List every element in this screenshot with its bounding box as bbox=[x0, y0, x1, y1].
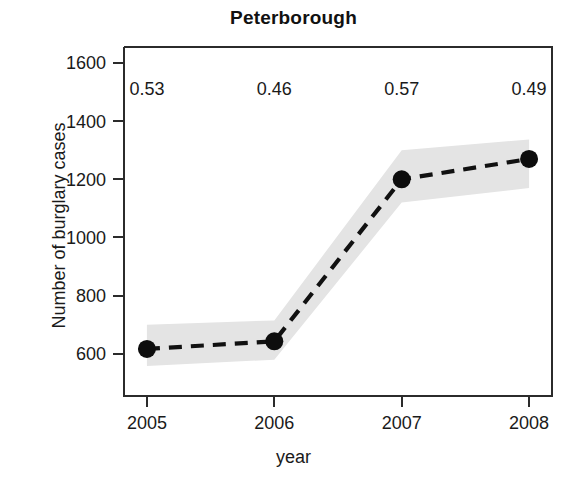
y-axis-tick-label: 600 bbox=[76, 344, 106, 364]
chart-figure: Peterborough Number of burglary cases ye… bbox=[0, 0, 587, 490]
confidence-band bbox=[147, 139, 529, 366]
y-axis-ticks bbox=[113, 63, 124, 354]
x-axis-ticks bbox=[147, 396, 529, 407]
data-point bbox=[393, 170, 411, 188]
annotation-label: 0.46 bbox=[257, 79, 292, 99]
y-axis-tick-label: 1600 bbox=[66, 53, 106, 73]
y-axis-tick-labels: 1600140012001000800600 bbox=[66, 53, 106, 364]
x-axis-tick-label: 2006 bbox=[254, 413, 294, 433]
y-axis-tick-label: 1400 bbox=[66, 112, 106, 132]
data-point bbox=[520, 150, 538, 168]
data-point bbox=[138, 340, 156, 358]
data-point bbox=[265, 332, 283, 350]
annotation-label: 0.49 bbox=[512, 79, 547, 99]
y-axis-tick-label: 1000 bbox=[66, 228, 106, 248]
x-axis-tick-label: 2007 bbox=[382, 413, 422, 433]
x-axis-tick-labels: 2005200620072008 bbox=[127, 413, 549, 433]
annotation-labels: 0.530.460.570.49 bbox=[129, 79, 546, 99]
y-axis-tick-label: 800 bbox=[76, 286, 106, 306]
plot-area: 1600140012001000800600 2005200620072008 … bbox=[0, 0, 587, 490]
y-axis-tick-label: 1200 bbox=[66, 170, 106, 190]
x-axis-tick-label: 2005 bbox=[127, 413, 167, 433]
annotation-label: 0.57 bbox=[384, 79, 419, 99]
annotation-label: 0.53 bbox=[129, 79, 164, 99]
x-axis-tick-label: 2008 bbox=[509, 413, 549, 433]
